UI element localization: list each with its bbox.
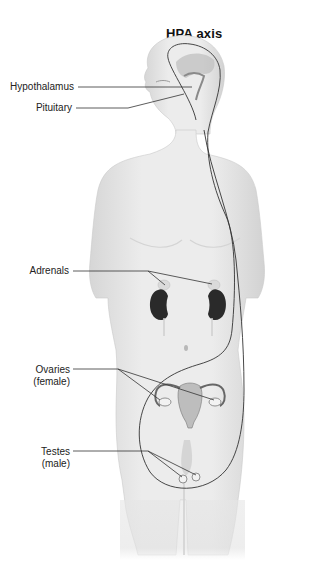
label-adrenals: Adrenals [4,265,69,277]
label-testes-line1: Testes [4,446,70,458]
label-ovaries-line2: (female) [4,376,70,388]
label-hypothalamus: Hypothalamus [4,81,74,93]
label-ovaries: Ovaries (female) [4,364,70,388]
label-testes: Testes (male) [4,446,70,470]
left-adrenal [158,280,170,290]
right-adrenal [208,280,220,290]
label-ovaries-line1: Ovaries [4,364,70,376]
label-testes-line2: (male) [4,458,70,470]
left-ovary [159,398,171,406]
torso [89,130,264,560]
head [145,35,225,134]
label-pituitary: Pituitary [4,102,72,114]
